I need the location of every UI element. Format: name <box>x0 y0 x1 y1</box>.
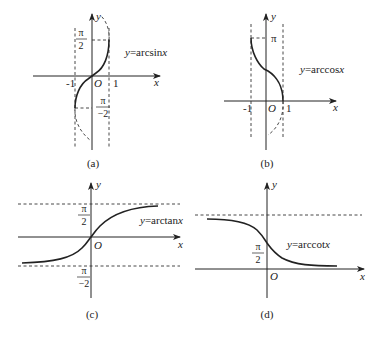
function-label: y=arcsinx <box>124 46 167 58</box>
svg-text:2: 2 <box>256 254 261 265</box>
svg-text:π: π <box>255 241 260 252</box>
svg-text:−2: −2 <box>79 278 90 289</box>
svg-text:π: π <box>78 27 83 38</box>
arccos-curve <box>251 38 283 101</box>
panel-a-arcsin: y x O -1 1 π 2 π −2 y=arcsinx (a) <box>33 10 167 170</box>
caption-b: (b) <box>261 157 274 170</box>
tick-neg-pi-half: π −2 <box>96 95 110 119</box>
tick-neg1: -1 <box>66 77 75 89</box>
arctan-curve <box>22 206 158 263</box>
origin-label: O <box>270 270 278 282</box>
panel-c-arctan: y x O π 2 π −2 y=arctanx (c) <box>18 178 183 321</box>
y-axis-label: y <box>95 178 101 190</box>
caption-c: (c) <box>86 308 99 321</box>
tick-1: 1 <box>113 77 119 89</box>
tick-pi-half: π 2 <box>76 27 87 51</box>
tick-pi-half: π 2 <box>78 203 90 227</box>
svg-text:π: π <box>81 203 86 214</box>
curve-extension-lower <box>75 108 90 140</box>
svg-text:2: 2 <box>79 40 84 51</box>
origin-label: O <box>268 102 276 114</box>
function-label: y=arctanx <box>139 214 183 226</box>
tick-neg-pi-half: π −2 <box>77 265 90 289</box>
x-axis-label: x <box>153 76 159 88</box>
y-axis-label: y <box>270 10 276 22</box>
y-axis-label: y <box>95 10 101 22</box>
origin-label: O <box>94 77 102 89</box>
svg-text:2: 2 <box>82 216 87 227</box>
panel-b-arccos: y x O -1 1 π y=arccosx (b) <box>224 10 344 170</box>
tick-pi-half: π 2 <box>252 241 264 265</box>
x-axis-label: x <box>177 238 183 250</box>
function-label: y=arccotx <box>286 238 330 250</box>
svg-text:π: π <box>81 265 86 276</box>
x-axis-label: x <box>359 270 365 282</box>
function-label: y=arccosx <box>299 63 344 75</box>
tick-pi: π <box>271 32 277 44</box>
y-axis-label: y <box>271 178 277 190</box>
tick-neg1: -1 <box>243 102 252 114</box>
panel-d-arccot: y x O π 2 y=arccotx (d) <box>195 178 365 321</box>
origin-label: O <box>94 239 102 251</box>
x-axis-label: x <box>332 101 338 113</box>
svg-text:π: π <box>100 95 105 106</box>
caption-d: (d) <box>261 308 274 321</box>
inverse-trig-figure: y x O -1 1 π 2 π −2 y=arcsinx (a) y x O … <box>0 0 376 340</box>
curve-extension-upper <box>100 15 109 40</box>
svg-text:−2: −2 <box>98 108 109 119</box>
tick-1: 1 <box>286 102 292 114</box>
caption-a: (a) <box>87 157 100 170</box>
